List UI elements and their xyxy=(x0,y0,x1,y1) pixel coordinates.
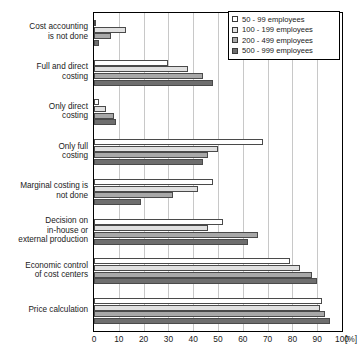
bar xyxy=(94,265,300,271)
category-label: Only directcosting xyxy=(0,102,88,121)
category-label-line: Full and direct xyxy=(0,62,88,72)
category-label-line: costing xyxy=(0,111,88,121)
chart-legend: 50 - 99 employees100 - 199 employees200 … xyxy=(228,11,340,60)
bar xyxy=(94,305,320,311)
legend-item: 200 - 499 employees xyxy=(232,35,336,46)
category-label-line: is not done xyxy=(0,32,88,42)
legend-label: 200 - 499 employees xyxy=(242,36,313,45)
legend-label: 50 - 99 employees xyxy=(242,15,304,24)
x-tick-label: 40 xyxy=(189,334,198,344)
category-label-line: Marginal costing is xyxy=(0,181,88,191)
x-tick-label: 90 xyxy=(313,334,322,344)
category-label-line: Price calculation xyxy=(0,305,88,315)
legend-item: 50 - 99 employees xyxy=(232,14,336,25)
category-label-line: of cost centers xyxy=(0,270,88,280)
legend-swatch-icon xyxy=(232,37,238,43)
category-label-line: Cost accounting xyxy=(0,22,88,32)
category-label: Only fullcosting xyxy=(0,142,88,161)
bar xyxy=(94,232,258,238)
plot-area xyxy=(93,12,343,332)
category-label: Economic controlof cost centers xyxy=(0,261,88,280)
category-label-line: Only direct xyxy=(0,102,88,112)
category-label-line: external production xyxy=(0,235,88,245)
x-tick-label: 30 xyxy=(164,334,173,344)
bar-group xyxy=(94,172,342,212)
x-tick-label: 0 xyxy=(92,334,97,344)
bar xyxy=(94,139,263,145)
bar-group xyxy=(94,132,342,172)
bar xyxy=(94,40,99,46)
bar xyxy=(94,20,96,26)
bar-group xyxy=(94,93,342,133)
category-label: Cost accountingis not done xyxy=(0,22,88,41)
category-label: Full and directcosting xyxy=(0,62,88,81)
plot-inner xyxy=(94,13,342,331)
category-label-line: in-house or xyxy=(0,226,88,236)
bar xyxy=(94,60,168,66)
x-tick-label: 70 xyxy=(263,334,272,344)
bar xyxy=(94,272,312,278)
bar xyxy=(94,159,203,165)
bar xyxy=(94,239,248,245)
legend-swatch-icon xyxy=(232,48,238,54)
bar xyxy=(94,179,213,185)
bar xyxy=(94,66,188,72)
bar xyxy=(94,219,223,225)
x-tick-label: 50 xyxy=(213,334,222,344)
bar xyxy=(94,186,198,192)
bar xyxy=(94,113,114,119)
x-axis-tick-labels: 0102030405060708090100 xyxy=(93,334,343,348)
bar xyxy=(94,225,208,231)
legend-item: 100 - 199 employees xyxy=(232,25,336,36)
category-label-line: not done xyxy=(0,191,88,201)
category-label: Decision onin-house orexternal productio… xyxy=(0,216,88,245)
legend-swatch-icon xyxy=(232,16,238,22)
legend-item: 500 - 999 employees xyxy=(232,46,336,57)
legend-swatch-icon xyxy=(232,27,238,33)
bar xyxy=(94,80,213,86)
category-label-line: Only full xyxy=(0,142,88,152)
x-tick-label: 60 xyxy=(238,334,247,344)
bar xyxy=(94,192,173,198)
x-axis-unit-label: [%] xyxy=(345,334,357,344)
category-label: Marginal costing isnot done xyxy=(0,181,88,200)
bar-group xyxy=(94,212,342,252)
legend-label: 100 - 199 employees xyxy=(242,25,313,34)
bar xyxy=(94,258,290,264)
bar xyxy=(94,311,325,317)
category-label-line: costing xyxy=(0,72,88,82)
category-label: Price calculation xyxy=(0,305,88,315)
bar xyxy=(94,27,126,33)
bar xyxy=(94,73,203,79)
bar xyxy=(94,99,99,105)
legend-label: 500 - 999 employees xyxy=(242,46,313,55)
x-tick-label: 20 xyxy=(139,334,148,344)
bar xyxy=(94,298,322,304)
category-axis-labels: Cost accountingis not doneFull and direc… xyxy=(0,12,88,332)
bar xyxy=(94,278,317,284)
bar xyxy=(94,119,116,125)
bar xyxy=(94,33,111,39)
bar-group xyxy=(94,252,342,292)
bar xyxy=(94,106,106,112)
x-tick-label: 10 xyxy=(114,334,123,344)
category-label-line: Economic control xyxy=(0,261,88,271)
bar xyxy=(94,199,141,205)
bar-chart: Cost accountingis not doneFull and direc… xyxy=(0,0,364,361)
bar xyxy=(94,152,208,158)
bar-group xyxy=(94,291,342,331)
x-tick-label: 80 xyxy=(288,334,297,344)
category-label-line: Decision on xyxy=(0,216,88,226)
bar xyxy=(94,318,330,324)
category-label-line: costing xyxy=(0,151,88,161)
bar xyxy=(94,146,218,152)
